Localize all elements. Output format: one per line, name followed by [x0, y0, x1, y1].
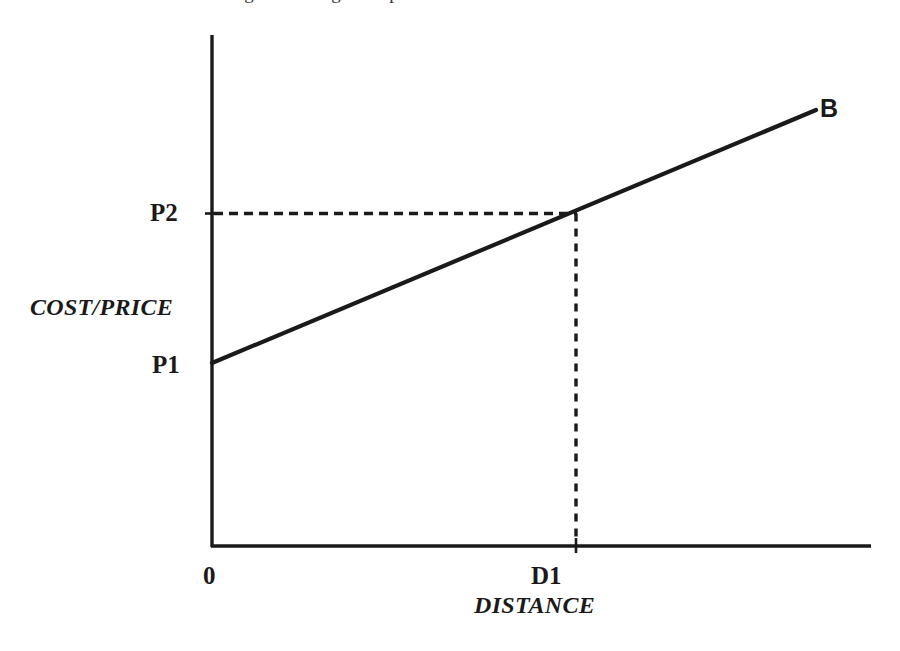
chart-plot-area [0, 0, 900, 651]
x-axis-title: DISTANCE [474, 593, 595, 617]
y-tick-label-p1: P1 [152, 352, 180, 377]
origin-label: 0 [203, 563, 216, 588]
x-tick-label-d1: D1 [531, 563, 562, 588]
y-tick-label-p2: P2 [150, 200, 178, 225]
line-end-label-b: B [820, 96, 838, 121]
y-axis-title: COST/PRICE [30, 295, 173, 319]
cost-price-line-b [212, 110, 816, 363]
figure-canvas: long-run average cost per unit P2 P1 0 D… [0, 0, 900, 651]
